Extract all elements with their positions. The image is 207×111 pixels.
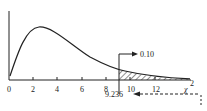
axis-label-superscript: 2 [190, 79, 194, 88]
tick-label: 10 [127, 85, 135, 94]
tick-label: 6 [80, 85, 84, 94]
tick-label: 2 [31, 85, 35, 94]
tick-label: 12 [152, 85, 160, 94]
axis-label: χ [183, 85, 188, 94]
tick-label: 0 [7, 85, 11, 94]
density-curve [10, 27, 190, 79]
arrow-head-icon [132, 52, 138, 57]
area-label: 0.10 [140, 50, 154, 59]
tick-label: 4 [55, 85, 59, 94]
chi-square-chart: 0 2 4 6 8 10 12 χ 2 0.10 9.236 [0, 0, 207, 111]
critical-value-label: 9.236 [105, 90, 123, 99]
